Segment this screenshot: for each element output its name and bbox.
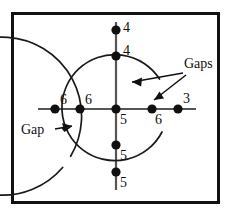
label-left-outer: 6 bbox=[60, 92, 67, 107]
label-left-inner: 6 bbox=[85, 92, 92, 107]
point-left-inner bbox=[75, 104, 84, 113]
label-top-inner: 4 bbox=[123, 43, 130, 58]
point-top-outer bbox=[111, 25, 120, 34]
label-bottom-outer: 5 bbox=[120, 175, 127, 190]
label-top-outer: 4 bbox=[123, 20, 130, 35]
diagram-canvas: 4 4 6 6 5 6 3 5 5 Gaps Gap bbox=[0, 0, 232, 215]
label-right-inner: 6 bbox=[155, 112, 162, 127]
annotation-gaps: Gaps bbox=[184, 56, 213, 71]
label-bottom-inner: 5 bbox=[120, 148, 127, 163]
annotation-gap: Gap bbox=[21, 122, 44, 137]
figure-root: 4 4 6 6 5 6 3 5 5 Gaps Gap bbox=[0, 0, 232, 215]
point-top-inner bbox=[111, 51, 120, 60]
label-center: 5 bbox=[120, 112, 127, 127]
label-right-outer: 3 bbox=[183, 91, 190, 106]
point-right-outer bbox=[173, 104, 182, 113]
point-left-outer bbox=[50, 104, 59, 113]
